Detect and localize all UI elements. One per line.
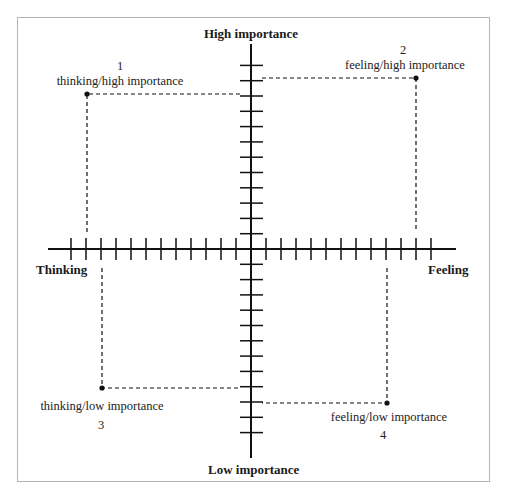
quadrant-1-label: thinking/high importance <box>50 74 190 89</box>
axis-label-left: Thinking <box>36 262 87 278</box>
axis-label-right: Feeling <box>428 262 468 278</box>
point-3 <box>99 385 104 390</box>
quadrant-3-number: 3 <box>81 418 121 433</box>
quadrant-3-label: thinking/low importance <box>36 399 168 414</box>
quadrant-4-number: 4 <box>363 428 403 443</box>
guide-quadrant-2 <box>262 78 416 232</box>
quadrant-1-number: 1 <box>100 59 140 74</box>
axis-label-bottom: Low importance <box>208 462 296 478</box>
quadrant-4-label: feeling/low importance <box>326 410 452 425</box>
guide-quadrant-1 <box>87 94 240 232</box>
guide-quadrant-3 <box>102 268 240 388</box>
point-1 <box>84 91 89 96</box>
point-2 <box>413 75 418 80</box>
axis-label-top: High importance <box>201 26 301 42</box>
quadrant-2-label: feeling/high importance <box>340 58 470 73</box>
quadrant-2-number: 2 <box>383 43 423 58</box>
point-4 <box>384 400 389 405</box>
guide-quadrant-4 <box>262 268 387 403</box>
